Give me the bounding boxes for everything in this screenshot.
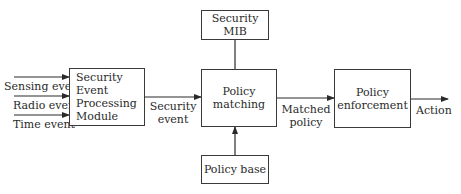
sep-module-line-4: Module [76, 110, 137, 123]
policy-matching-line-2: matching [213, 98, 265, 111]
policy-enforcement-box: Policy enforcement [334, 69, 411, 128]
sep-module-line-2: Event [76, 84, 137, 97]
time-event-label: Time event [13, 118, 75, 131]
policy-enforcement-line-1: Policy [337, 86, 408, 99]
matched-policy-line-1: Matched [281, 103, 331, 116]
security-event-line-2: event [148, 113, 198, 126]
security-mib-box: Security MIB [201, 10, 269, 40]
policy-matching-box: Policy matching [201, 69, 277, 127]
security-event-label: Security event [148, 100, 198, 126]
sep-module-line-3: Processing [76, 97, 137, 110]
policy-base-label: Policy base [204, 163, 266, 176]
sep-module-line-1: Security [76, 71, 137, 84]
action-label: Action [416, 104, 452, 117]
policy-enforcement-line-2: enforcement [337, 99, 408, 112]
matched-policy-label: Matched policy [281, 103, 331, 129]
policy-base-box: Policy base [201, 155, 269, 184]
security-mib-label: Security MIB [202, 12, 268, 38]
policy-matching-line-1: Policy [213, 85, 265, 98]
security-event-processing-module-box: Security Event Processing Module [69, 68, 145, 126]
security-event-line-1: Security [148, 100, 198, 113]
matched-policy-line-2: policy [281, 116, 331, 129]
